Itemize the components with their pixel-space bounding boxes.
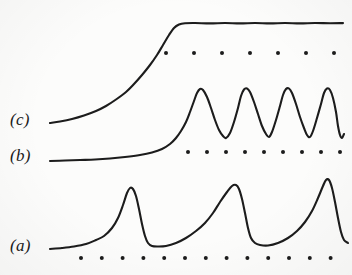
timing-dot-rows <box>79 51 342 260</box>
trace-curve-b <box>50 88 344 161</box>
timing-dot <box>281 150 285 154</box>
timing-dot <box>164 51 168 55</box>
trace-label-b: (b) <box>10 146 31 166</box>
timing-dot <box>304 51 308 55</box>
timing-dot <box>308 256 312 260</box>
timing-dot <box>243 150 247 154</box>
timing-dot <box>220 51 224 55</box>
timing-dot <box>262 150 266 154</box>
trace-curve-c <box>50 23 343 123</box>
timing-dot <box>162 256 166 260</box>
timing-dots-c <box>164 51 336 55</box>
timing-dot <box>338 150 342 154</box>
trace-label-a: (a) <box>10 236 31 256</box>
timing-dot <box>276 51 280 55</box>
timing-dot <box>319 150 323 154</box>
timing-dot <box>205 150 209 154</box>
timing-dot <box>192 51 196 55</box>
timing-dot <box>329 256 333 260</box>
timing-dots-a <box>79 256 333 260</box>
timing-dot <box>100 256 104 260</box>
timing-dot <box>141 256 145 260</box>
timing-dot <box>300 150 304 154</box>
timing-dot <box>248 51 252 55</box>
trace-label-c: (c) <box>10 110 30 130</box>
timing-dot <box>204 256 208 260</box>
trace-curve-a <box>50 179 348 249</box>
trace-curves <box>50 23 348 249</box>
timing-dots-b <box>186 150 342 154</box>
oscilloscope-traces <box>0 0 352 275</box>
timing-dot <box>121 256 125 260</box>
timing-dot <box>287 256 291 260</box>
timing-dot <box>225 256 229 260</box>
timing-dot <box>183 256 187 260</box>
timing-dot <box>266 256 270 260</box>
timing-dot <box>332 51 336 55</box>
timing-dot <box>186 150 190 154</box>
timing-dot <box>79 256 83 260</box>
timing-dot <box>245 256 249 260</box>
figure-panel: (c) (b) (a) <box>0 0 352 275</box>
timing-dot <box>224 150 228 154</box>
